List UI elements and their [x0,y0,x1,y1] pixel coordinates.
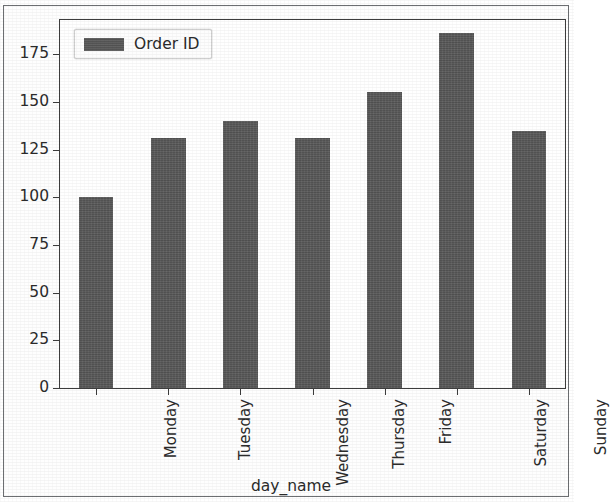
bar-slot [132,20,204,388]
bar-slot [60,20,132,388]
bar [439,33,474,388]
x-axis-tick-label: Tuesday [236,399,254,460]
y-axis-tick [53,150,60,151]
bar-series-order-id [60,20,565,388]
y-axis-tick-label: 100 [8,187,49,205]
bar-slot [276,20,348,388]
legend: Order ID [74,29,212,59]
legend-label-order-id: Order ID [134,35,199,53]
x-axis-tick-label: Wednesday [334,399,352,486]
x-axis-tick-label: Monday [162,399,180,458]
bar [223,121,258,388]
y-axis-tick-label: 150 [8,92,49,110]
y-axis-tick [53,54,60,55]
x-axis-tick [457,388,458,395]
y-axis-tick-label: 125 [8,140,49,158]
bar [295,138,330,388]
x-axis-tick-label: Sunday [592,399,610,455]
y-axis-tick-label: 50 [8,283,49,301]
bar [79,197,114,388]
bar [151,138,186,388]
x-axis-tick [240,388,241,395]
x-axis-tick [529,388,530,395]
y-axis-tick-label: 0 [8,378,49,396]
legend-swatch-order-id [84,38,124,51]
x-axis-tick [96,388,97,395]
x-axis-tick-label: Thursday [389,399,407,469]
plot-area: 0255075100125150175 MondayTuesdayWednesd… [59,19,566,389]
bar-slot [204,20,276,388]
y-axis-tick [53,245,60,246]
x-axis-tick-label: Saturday [531,399,549,467]
x-axis-tick [385,388,386,395]
x-axis-tick [313,388,314,395]
bar [512,131,547,388]
y-axis-tick-label: 25 [8,330,49,348]
x-axis-title: day_name [4,477,578,495]
y-axis-tick-label: 75 [8,235,49,253]
bar-slot [349,20,421,388]
figure-frame: 0255075100125150175 MondayTuesdayWednesd… [3,5,569,497]
x-axis-tick-label: Friday [437,399,455,444]
y-axis-tick [53,197,60,198]
y-axis-tick [53,340,60,341]
bar [367,92,402,388]
y-axis-tick [53,102,60,103]
bar-slot [421,20,493,388]
bar-slot [493,20,565,388]
y-axis-tick [53,388,60,389]
y-axis-tick-label: 175 [8,44,49,62]
x-axis-tick [168,388,169,395]
y-axis-tick [53,293,60,294]
